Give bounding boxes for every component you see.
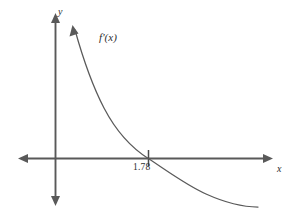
x-axis-right-arrow-icon: [263, 154, 273, 163]
y-axis-bottom-arrow-icon: [51, 196, 60, 206]
x-axis-left-arrow-icon: [18, 154, 28, 163]
curve-top-arrow-icon: [70, 25, 79, 37]
graph-canvas: [0, 0, 295, 220]
math-graph-figure: y x f'(x) 1.78: [0, 0, 295, 220]
curve-label: f'(x): [99, 32, 117, 43]
x-axis-label: x: [277, 164, 281, 174]
x-intercept-tick-label: 1.78: [133, 163, 150, 173]
function-curve: [70, 25, 259, 207]
curve-path: [75, 30, 258, 207]
y-axis-label: y: [58, 7, 62, 17]
vertical-axis: [51, 13, 60, 206]
